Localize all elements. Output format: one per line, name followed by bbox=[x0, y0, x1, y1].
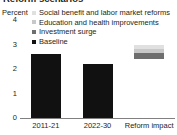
bar-segment[interactable] bbox=[134, 49, 164, 53]
bar-segment[interactable] bbox=[134, 53, 164, 59]
bar-segment[interactable] bbox=[83, 64, 113, 118]
bar-group[interactable] bbox=[83, 20, 113, 118]
page-title: Reform scenarios bbox=[3, 0, 177, 3]
plot-area: 43210 bbox=[20, 20, 175, 118]
bar-segment[interactable] bbox=[31, 54, 61, 118]
x-axis-tick-labels: 2011-212022-30Reform impact bbox=[20, 121, 175, 133]
legend-item-label: Social benefit and labor market reforms bbox=[39, 8, 170, 17]
y-axis-tick-label: 0 bbox=[13, 114, 17, 122]
legend-item[interactable]: Social benefit and labor market reforms bbox=[32, 8, 177, 18]
x-axis-line bbox=[20, 118, 175, 119]
x-axis-category-label: 2011-21 bbox=[32, 121, 59, 130]
x-axis-category-label: 2022-30 bbox=[84, 121, 112, 130]
chart-container: Reform scenarios Percent Social benefit … bbox=[0, 0, 177, 135]
bar-group[interactable] bbox=[134, 20, 164, 118]
bar-segment[interactable] bbox=[134, 45, 164, 50]
y-axis-tick-label: 1 bbox=[13, 90, 17, 98]
chart-title-clipped: Reform scenarios bbox=[3, 0, 177, 3]
y-axis-tick-label: 2 bbox=[13, 65, 17, 73]
y-axis-tick-label: 4 bbox=[13, 16, 17, 24]
x-axis-category-label: Reform impact bbox=[125, 121, 174, 130]
y-axis-tick-label: 3 bbox=[13, 41, 17, 49]
bar-group[interactable] bbox=[31, 20, 61, 118]
legend-swatch-icon bbox=[32, 11, 36, 15]
